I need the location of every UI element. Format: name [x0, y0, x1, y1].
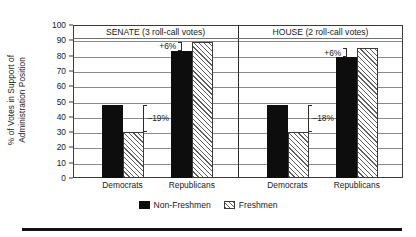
legend-swatch-hatch — [224, 201, 235, 209]
y-tick-label: 60 — [57, 81, 66, 91]
chart-legend: Non-FreshmenFreshmen — [0, 200, 416, 210]
bar-freshmen — [192, 42, 213, 178]
legend-item-non-freshmen: Non-Freshmen — [139, 200, 211, 210]
y-tick-label: 100 — [52, 20, 66, 30]
panel-senate: –19%+6% — [73, 39, 238, 178]
bar-non-freshmen — [267, 105, 288, 178]
y-axis-title-line2: Administration Position — [17, 55, 28, 145]
y-tick-label: 90 — [57, 35, 66, 45]
y-tick-label: 10 — [57, 158, 66, 168]
bar-freshmen — [288, 132, 309, 178]
bar-non-freshmen — [171, 51, 192, 178]
panel-house: –18%+6% — [238, 39, 403, 178]
delta-bracket — [178, 42, 182, 51]
panel-title-senate: SENATE (3 roll-call votes) — [73, 25, 238, 38]
bar-freshmen — [357, 48, 378, 178]
bar-group — [336, 39, 378, 178]
bar-non-freshmen — [336, 57, 357, 178]
y-tick-label: 40 — [57, 112, 66, 122]
legend-swatch-solid — [139, 201, 150, 209]
y-axis-title: % of Votes in Support of Administration … — [0, 14, 34, 186]
legend-label: Freshmen — [239, 200, 278, 210]
bar-non-freshmen — [102, 105, 123, 178]
y-tick-label: 0 — [61, 173, 66, 183]
x-tick-label-republicans: Republicans — [334, 180, 380, 190]
y-axis-tick-labels: 1009080706050403020100 — [46, 25, 70, 178]
delta-label: –18% — [313, 113, 334, 123]
bar-group — [171, 39, 213, 178]
y-tick-label: 20 — [57, 142, 66, 152]
bottom-divider-rule — [22, 228, 402, 231]
x-labels-panel: DemocratsRepublicans — [238, 180, 403, 194]
delta-bracket — [143, 105, 147, 133]
panel-title-house: HOUSE (2 roll-call votes) — [238, 25, 403, 38]
legend-label: Non-Freshmen — [154, 200, 211, 210]
legend-item-freshmen: Freshmen — [224, 200, 278, 210]
y-axis-title-line1: % of Votes in Support of — [7, 55, 16, 145]
x-tick-label-republicans: Republicans — [169, 180, 215, 190]
bar-group — [102, 39, 144, 178]
x-labels-panel: DemocratsRepublicans — [73, 180, 238, 194]
x-tick-label-democrats: Democrats — [267, 180, 308, 190]
y-tick-label: 30 — [57, 127, 66, 137]
y-tick-label: 50 — [57, 97, 66, 107]
x-axis-tick-labels: DemocratsRepublicansDemocratsRepublicans — [73, 180, 403, 194]
y-tick-label: 80 — [57, 51, 66, 61]
delta-bracket — [343, 48, 347, 57]
panel-title-band: SENATE (3 roll-call votes)HOUSE (2 roll-… — [73, 25, 403, 39]
delta-label: +6% — [159, 41, 176, 51]
delta-label: +6% — [324, 48, 341, 58]
bar-group — [267, 39, 309, 178]
bar-freshmen — [123, 132, 144, 178]
bar-panels: –19%+6%–18%+6% — [73, 39, 403, 178]
delta-label: –19% — [148, 113, 169, 123]
figure: % of Votes in Support of Administration … — [0, 0, 416, 237]
x-tick-label-democrats: Democrats — [102, 180, 143, 190]
y-tick-label: 70 — [57, 66, 66, 76]
delta-bracket — [308, 105, 312, 133]
